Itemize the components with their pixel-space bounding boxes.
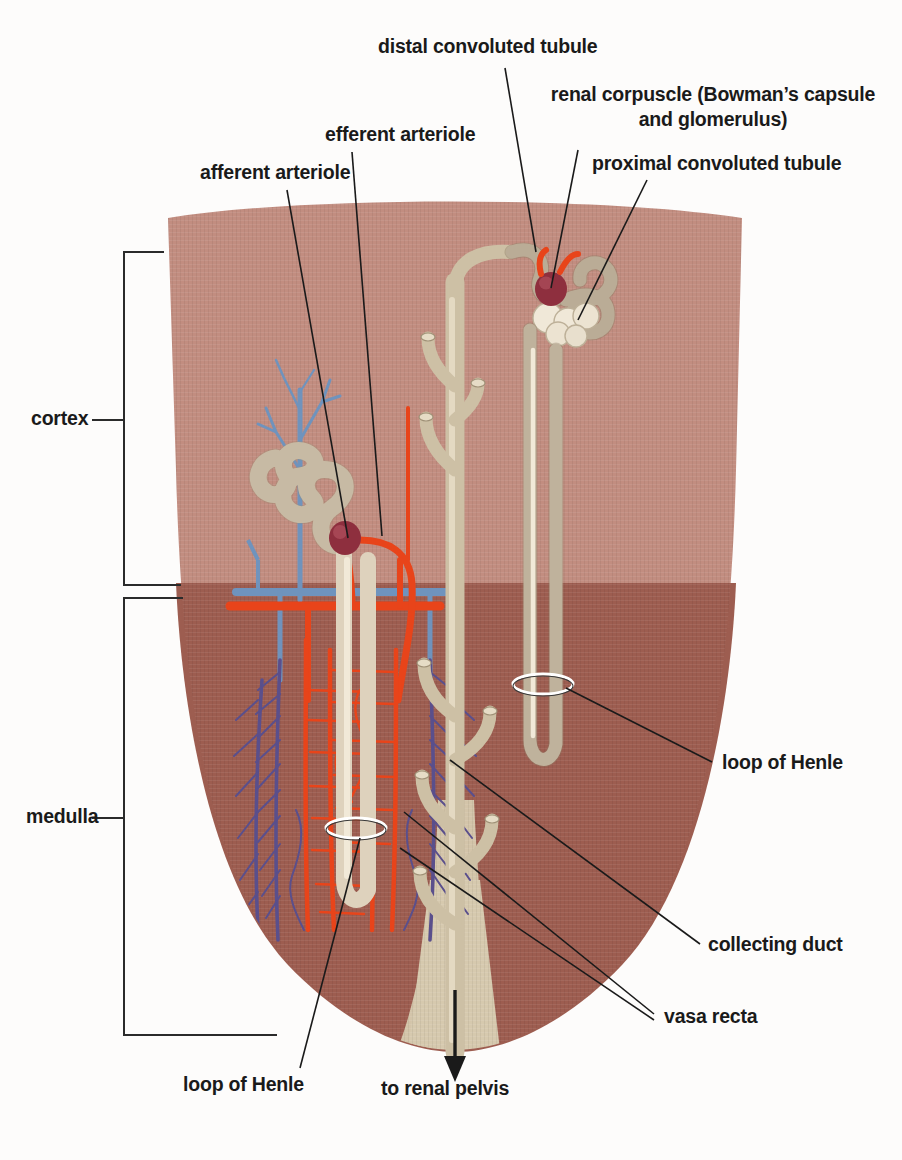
right-glomerulus [535,272,567,306]
label-medulla: medulla [26,804,98,829]
label-vasa-recta: vasa recta [664,1004,757,1029]
label-loop-of-henle-bottom: loop of Henle [183,1072,304,1097]
left-renal-corpuscle [329,521,361,555]
label-collecting-duct: collecting duct [708,932,843,957]
label-cortex: cortex [31,406,88,431]
label-renal-corpuscle: renal corpuscle (Bowman’s capsule and gl… [528,82,898,132]
label-renal-corpuscle-line2: and glomerulus) [639,108,788,130]
label-renal-corpuscle-line1: renal corpuscle (Bowman’s capsule [551,83,875,105]
label-proximal-convoluted-tubule: proximal convoluted tubule [592,151,841,176]
nephron-figure: distal convoluted tubule renal corpuscle… [0,0,902,1160]
label-to-renal-pelvis: to renal pelvis [381,1076,509,1101]
label-efferent-arteriole: efferent arteriole [325,122,475,147]
label-loop-of-henle-right: loop of Henle [722,750,843,775]
left-glomerulus [329,521,361,555]
left-glomerulus-highlight [333,525,347,539]
label-afferent-arteriole: afferent arteriole [200,160,350,185]
label-distal-convoluted-tubule: distal convoluted tubule [378,34,597,59]
